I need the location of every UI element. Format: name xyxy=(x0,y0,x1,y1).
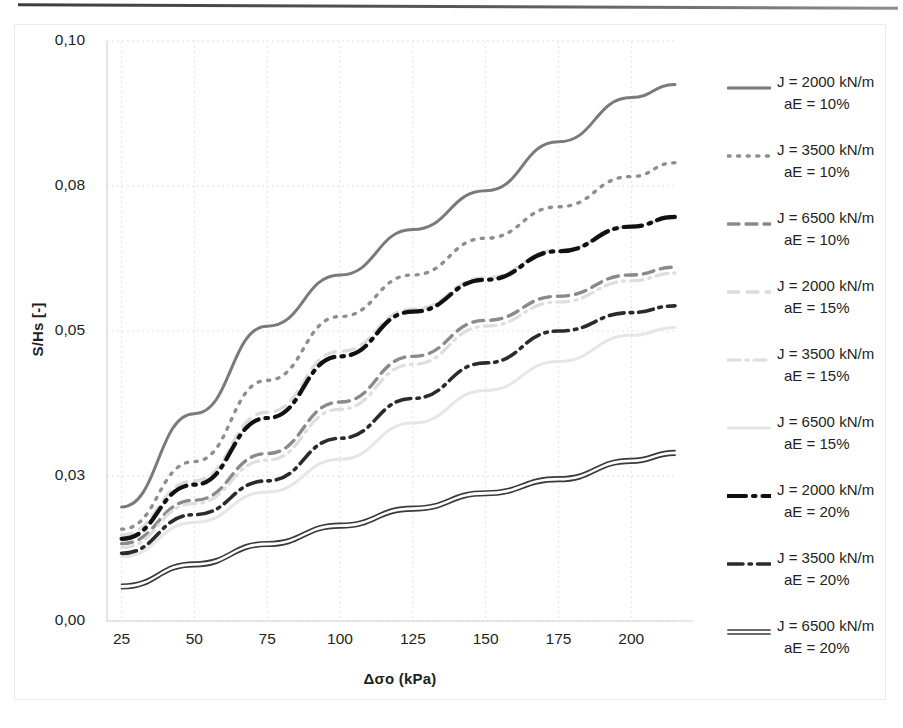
legend-line-swatch-icon xyxy=(727,557,771,571)
legend-line-swatch-icon xyxy=(727,149,771,163)
x-tick-label: 125 xyxy=(383,630,443,648)
legend-label-line2: aE = 15% xyxy=(777,297,903,319)
legend-item[interactable]: J = 2000 kN/maE = 20% xyxy=(727,479,903,527)
legend-label: J = 2000 kN/maE = 20% xyxy=(777,479,903,523)
x-axis-title: Δσo (kPa) xyxy=(115,670,685,687)
data-series-layer xyxy=(122,85,675,589)
series-line-5 xyxy=(122,328,675,557)
x-tick-label: 50 xyxy=(164,630,224,648)
solid-light-line-icon xyxy=(727,421,771,435)
legend-line-swatch-icon xyxy=(727,489,771,503)
dashed-gray-line-icon xyxy=(727,217,771,231)
legend-label: J = 3500 kN/maE = 15% xyxy=(777,343,903,387)
series-line-8 xyxy=(122,451,675,589)
double-solid-dark-line-icon xyxy=(727,625,771,639)
legend-line-swatch-icon xyxy=(727,625,771,639)
legend-label-line2: aE = 15% xyxy=(777,365,903,387)
dotted-gray-line-icon xyxy=(727,149,771,163)
legend-label-line1: J = 6500 kN/m xyxy=(777,411,903,433)
y-tick-label: 0,00 xyxy=(23,611,85,629)
legend-item[interactable]: J = 6500 kN/maE = 10% xyxy=(727,207,903,255)
page-header-rule xyxy=(18,3,898,9)
dashed-light-line-icon xyxy=(727,285,771,299)
legend-item[interactable]: J = 2000 kN/maE = 10% xyxy=(727,71,903,119)
legend-line-swatch-icon xyxy=(727,421,771,435)
legend-line-swatch-icon xyxy=(727,81,771,95)
legend-label-line1: J = 3500 kN/m xyxy=(777,139,903,161)
legend-label-line1: J = 3500 kN/m xyxy=(777,343,903,365)
legend-label-line2: aE = 10% xyxy=(777,93,903,115)
legend-item[interactable]: J = 6500 kN/maE = 15% xyxy=(727,411,903,459)
series-line-7 xyxy=(122,306,675,553)
legend-line-swatch-icon xyxy=(727,353,771,367)
legend-item[interactable]: J = 2000 kN/maE = 15% xyxy=(727,275,903,323)
legend-label-line2: aE = 15% xyxy=(777,433,903,455)
legend-item[interactable]: J = 3500 kN/maE = 20% xyxy=(727,547,903,595)
legend-label-line1: J = 6500 kN/m xyxy=(777,615,903,637)
x-tick-label: 200 xyxy=(601,630,661,648)
legend-label-line1: J = 6500 kN/m xyxy=(777,207,903,229)
legend-item[interactable]: J = 3500 kN/maE = 10% xyxy=(727,139,903,187)
legend-label-line1: J = 3500 kN/m xyxy=(777,547,903,569)
legend-label-line2: aE = 10% xyxy=(777,229,903,251)
legend-label: J = 2000 kN/maE = 15% xyxy=(777,275,903,319)
legend-item[interactable]: J = 3500 kN/maE = 15% xyxy=(727,343,903,391)
legend-label: J = 6500 kN/maE = 15% xyxy=(777,411,903,455)
y-tick-label: 0,10 xyxy=(23,31,85,49)
legend-label-line2: aE = 10% xyxy=(777,161,903,183)
x-tick-label: 150 xyxy=(456,630,516,648)
x-tick-label: 100 xyxy=(310,630,370,648)
legend-label: J = 6500 kN/maE = 20% xyxy=(777,615,903,659)
legend-item[interactable]: J = 6500 kN/maE = 20% xyxy=(727,615,903,663)
series-line-6 xyxy=(122,217,675,539)
y-tick-label: 0,05 xyxy=(23,321,85,339)
series-line-0 xyxy=(122,85,675,507)
legend-label: J = 3500 kN/maE = 20% xyxy=(777,547,903,591)
y-tick-label: 0,08 xyxy=(23,176,85,194)
solid-gray-line-icon xyxy=(727,81,771,95)
legend-label-line2: aE = 20% xyxy=(777,569,903,591)
x-tick-label: 175 xyxy=(528,630,588,648)
legend-label-line1: J = 2000 kN/m xyxy=(777,479,903,501)
x-tick-label: 75 xyxy=(237,630,297,648)
series-line-3 xyxy=(122,218,675,535)
chart-container: S/Hs [-] Δσo (kPa) 0,000,030,050,080,10 … xyxy=(14,24,886,700)
legend-label-line1: J = 2000 kN/m xyxy=(777,275,903,297)
legend-label-line2: aE = 20% xyxy=(777,637,903,659)
gridlines xyxy=(107,41,693,621)
y-tick-label: 0,03 xyxy=(23,466,85,484)
legend-line-swatch-icon xyxy=(727,285,771,299)
dashdot-bold-black-line-icon xyxy=(727,489,771,503)
series-stroke-upper xyxy=(122,451,675,585)
dashdot-dark-line-icon xyxy=(727,557,771,571)
dashdot-light-line-icon xyxy=(727,353,771,367)
x-tick-label: 25 xyxy=(92,630,152,648)
legend-label: J = 2000 kN/maE = 10% xyxy=(777,71,903,115)
legend-label-line1: J = 2000 kN/m xyxy=(777,71,903,93)
legend-line-swatch-icon xyxy=(727,217,771,231)
legend-label: J = 3500 kN/maE = 10% xyxy=(777,139,903,183)
legend-label-line2: aE = 20% xyxy=(777,501,903,523)
legend-label: J = 6500 kN/maE = 10% xyxy=(777,207,903,251)
